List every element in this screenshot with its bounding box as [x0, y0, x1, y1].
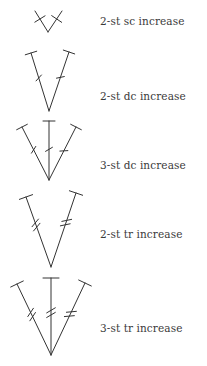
label-2-st-dc-increase: 2-st dc increase [100, 90, 186, 102]
stitch-cross [35, 16, 45, 22]
stitch-tick [64, 316, 74, 317]
label-3-st-tr-increase: 3-st tr increase [100, 322, 182, 334]
stitch-top-bar [79, 280, 92, 286]
stitch-symbols [0, 0, 207, 366]
label-3-st-dc-increase: 3-st dc increase [100, 159, 186, 171]
stitch-stem [26, 197, 51, 267]
symbol-2-st-dc-increase [25, 50, 74, 111]
symbol-2-st-sc-increase [35, 11, 62, 32]
stitch-stem [51, 193, 76, 267]
symbol-2-st-tr-increase [19, 191, 82, 267]
stitch-stem [17, 284, 51, 355]
stitch-stem [35, 11, 48, 32]
stitch-top-bar [11, 281, 24, 287]
stitch-stem [49, 127, 76, 180]
stitch-stem [31, 53, 49, 111]
stitch-tick [30, 313, 36, 321]
stitch-stem [49, 52, 69, 111]
stitch-top-bar [19, 195, 32, 200]
stitch-top-bar [69, 191, 82, 195]
stitch-stem [22, 127, 49, 180]
stitch-tick [36, 75, 41, 81]
stitch-tick [66, 311, 76, 312]
stitch-top-bar [71, 124, 82, 129]
symbol-3-st-tr-increase [11, 278, 92, 355]
stitch-top-bar [17, 124, 28, 129]
stitch-cross [52, 16, 62, 23]
symbol-3-st-dc-increase [17, 121, 82, 180]
label-2-st-sc-increase: 2-st sc increase [100, 15, 184, 27]
stitch-tick [28, 308, 34, 316]
label-2-st-tr-increase: 2-st tr increase [100, 228, 182, 240]
stitch-stem [51, 283, 85, 355]
